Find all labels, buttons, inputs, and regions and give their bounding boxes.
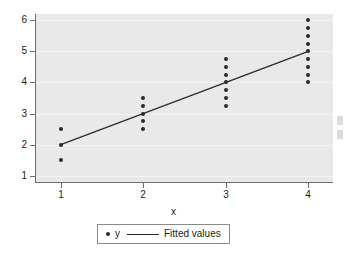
filled-circle-icon xyxy=(106,232,110,236)
y-tick-label: 5 xyxy=(7,46,27,56)
edge-crop-artifact xyxy=(337,130,343,139)
y-tick-mark xyxy=(30,114,35,115)
y-axis-line xyxy=(35,14,36,182)
y-tick-label: 6 xyxy=(7,15,27,25)
x-tick-label: 3 xyxy=(214,190,238,200)
scatter-point xyxy=(224,88,228,92)
legend-entry-y: y xyxy=(106,229,120,239)
scatter-point xyxy=(59,127,63,131)
plot-area xyxy=(36,14,333,182)
scatter-point xyxy=(306,42,310,46)
gridline xyxy=(36,20,333,21)
y-tick-label: 3 xyxy=(7,109,27,119)
y-tick-label: 4 xyxy=(7,77,27,87)
gridline xyxy=(36,145,333,146)
y-tick-mark xyxy=(30,82,35,83)
x-tick-mark xyxy=(143,183,144,188)
x-tick-label: 2 xyxy=(131,190,155,200)
line-swatch-icon xyxy=(127,234,159,235)
y-tick-label: 2 xyxy=(7,140,27,150)
scatter-point xyxy=(224,96,228,100)
y-tick-mark xyxy=(30,176,35,177)
legend-entry-fitted-values: Fitted values xyxy=(127,229,221,239)
scatter-point xyxy=(59,158,63,162)
legend-label-y: y xyxy=(115,229,120,239)
x-tick-label: 1 xyxy=(49,190,73,200)
y-tick-mark xyxy=(30,51,35,52)
x-tick-mark xyxy=(61,183,62,188)
scatter-plot-figure: 123456 1234 x y Fitted values xyxy=(0,0,347,254)
edge-crop-artifact xyxy=(337,116,343,125)
scatter-point xyxy=(224,73,228,77)
x-tick-mark xyxy=(226,183,227,188)
scatter-point xyxy=(306,73,310,77)
x-tick-label: 4 xyxy=(296,190,320,200)
legend: y Fitted values xyxy=(97,224,230,244)
scatter-point xyxy=(141,112,145,116)
gridline xyxy=(36,176,333,177)
gridline xyxy=(36,51,333,52)
gridline xyxy=(36,114,333,115)
y-tick-mark xyxy=(30,145,35,146)
legend-label-fitted-values: Fitted values xyxy=(164,229,221,239)
x-tick-mark xyxy=(308,183,309,188)
scatter-point xyxy=(224,65,228,69)
scatter-point xyxy=(224,104,228,108)
x-axis-line xyxy=(35,182,333,183)
scatter-point xyxy=(59,143,63,147)
x-axis-title: x xyxy=(0,206,347,217)
y-tick-label: 1 xyxy=(7,171,27,181)
scatter-point xyxy=(224,57,228,61)
y-tick-mark xyxy=(30,20,35,21)
gridline xyxy=(36,82,333,83)
